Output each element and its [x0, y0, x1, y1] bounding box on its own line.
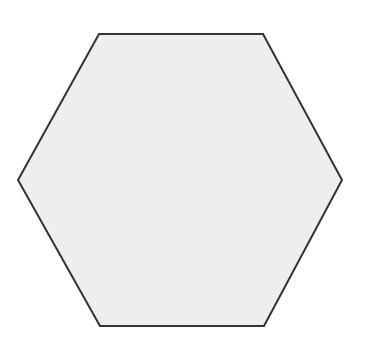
hexagon-shape [18, 34, 342, 326]
diagram-canvas [0, 0, 373, 346]
hexagon-figure [0, 0, 373, 346]
